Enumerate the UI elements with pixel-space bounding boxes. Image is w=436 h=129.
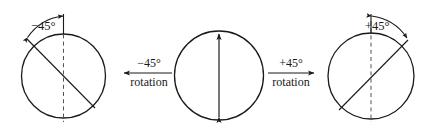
right-angle-label: +45°	[365, 20, 390, 33]
right-rotated-axis	[339, 40, 408, 110]
rotation-diagram: −45° +45° −45° rotation +45° rotation	[0, 0, 436, 129]
right-transition-denominator: rotation	[269, 75, 313, 90]
left-transition-label-group: −45° rotation	[127, 56, 171, 90]
middle-circle-group	[175, 31, 264, 120]
left-transition-numerator: −45°	[127, 56, 171, 71]
right-transition-numerator: +45°	[269, 56, 313, 71]
left-rotated-axis	[27, 39, 95, 108]
left-transition-denominator: rotation	[127, 75, 171, 90]
right-transition-label-group: +45° rotation	[269, 56, 313, 90]
left-angle-label: −45°	[31, 20, 56, 33]
